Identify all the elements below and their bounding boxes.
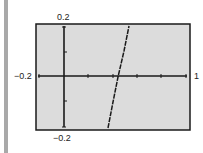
calculator-graph-screen [0, 0, 203, 153]
